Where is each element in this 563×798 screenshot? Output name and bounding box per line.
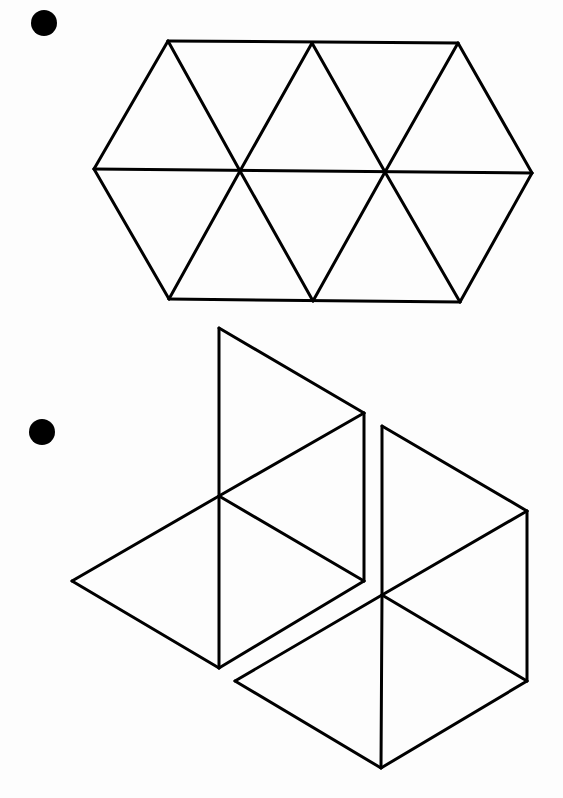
edge-line xyxy=(169,171,240,299)
edge-line xyxy=(385,172,460,302)
net-left xyxy=(29,328,364,668)
edge-line xyxy=(460,173,532,302)
edge-line xyxy=(313,172,385,301)
edge-line xyxy=(385,43,458,172)
edge-line xyxy=(382,595,527,681)
diagram-canvas xyxy=(0,0,563,798)
bullet-dot-icon xyxy=(29,419,55,445)
edge-line xyxy=(458,43,532,173)
edge-line xyxy=(94,41,168,169)
edge-line xyxy=(235,595,382,681)
edge-line xyxy=(94,169,532,173)
edge-line xyxy=(312,43,385,172)
edge-line xyxy=(235,681,381,768)
edge-line xyxy=(381,681,527,768)
edge-line xyxy=(72,496,219,581)
edge-line xyxy=(219,581,364,668)
edge-line xyxy=(94,169,169,299)
hexagon-grid xyxy=(31,10,532,302)
edge-line xyxy=(381,595,382,768)
edge-line xyxy=(240,43,312,171)
edge-line xyxy=(382,426,527,511)
bullet-dot-icon xyxy=(31,10,57,36)
edge-line xyxy=(219,413,364,496)
edge-line xyxy=(382,511,527,595)
net-right xyxy=(235,426,527,768)
edge-line xyxy=(219,496,364,581)
edge-line xyxy=(72,581,219,668)
edge-line xyxy=(168,41,240,171)
edge-line xyxy=(219,328,364,413)
edge-line xyxy=(240,171,313,301)
